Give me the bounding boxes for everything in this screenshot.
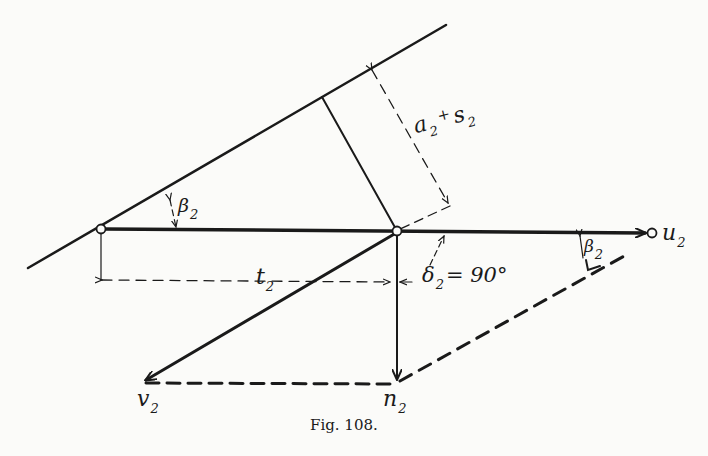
u-subscript: 2: [677, 235, 685, 250]
beta-symbol: β: [584, 236, 594, 256]
vector-diagram: [0, 0, 708, 456]
delta-subscript: 2: [436, 277, 444, 292]
v2-n2-dashed: [146, 383, 395, 384]
perpendicular-line: [322, 97, 397, 231]
t-symbol: t: [256, 264, 265, 289]
label-beta-right: β2: [584, 238, 603, 255]
figure-caption: Fig. 108.: [310, 416, 378, 434]
beta-subscript: 2: [595, 247, 603, 262]
label-u2: u2: [662, 222, 685, 244]
v2-vector: [146, 233, 396, 380]
n-symbol: n: [383, 386, 397, 411]
u-symbol: u: [662, 220, 676, 245]
label-v2: v2: [137, 388, 159, 410]
beta-symbol: β: [178, 194, 189, 216]
label-t2: t2: [256, 266, 274, 288]
v-symbol: v: [137, 386, 149, 411]
a2s2-extension: [400, 206, 450, 229]
label-beta-left: β2: [178, 196, 198, 215]
delta-value: = 90°: [446, 263, 508, 287]
center-pivot-circle: [393, 227, 402, 236]
beta-left-tick: [170, 200, 176, 227]
delta-tick: [430, 236, 444, 265]
v-subscript: 2: [150, 401, 158, 416]
label-delta2: δ2= 90°: [422, 265, 507, 286]
beta-subscript: 2: [190, 207, 198, 222]
label-n2: n2: [383, 388, 406, 410]
t2-dimension: [102, 280, 390, 282]
u2-vector: [104, 229, 645, 233]
left-pivot-circle: [97, 225, 106, 234]
n-subscript: 2: [398, 401, 406, 416]
plus-sign: +: [435, 105, 452, 126]
delta-symbol: δ: [422, 263, 435, 287]
beta-right-tick: [580, 236, 583, 258]
u2-end-circle: [648, 229, 657, 238]
t-subscript: 2: [266, 279, 274, 294]
